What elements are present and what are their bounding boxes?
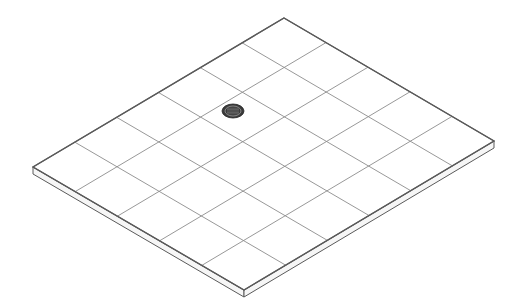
floor-slab-diagram	[0, 0, 523, 307]
floor-drain-icon	[222, 104, 244, 118]
